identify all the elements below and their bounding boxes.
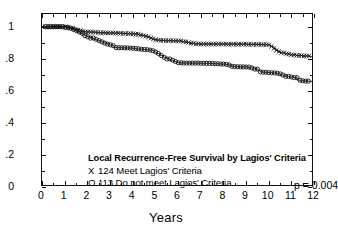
series-not-meet [42,25,312,84]
x-tick-label: 9 [242,190,248,201]
x-tick-label: 2 [83,190,89,201]
x-tick-label: 5 [151,190,157,201]
x-tick-label: 12 [307,190,319,201]
y-tick-label: 0 [8,181,14,192]
y-tick-label: .8 [5,53,14,64]
y-tick-label: .4 [5,117,14,128]
legend-label-meet: 124 Meet Lagios' Criteria [98,165,202,176]
chart-legend: Local Recurrence-Free Survival by Lagios… [88,152,306,190]
y-tick-label: .6 [5,85,14,96]
x-tick-label: 4 [129,190,135,201]
x-tick-major-top [314,14,315,18]
x-axis-title: Years [0,210,332,225]
legend-label-not-meet: 113 Do not meet Lagios' Criteria [98,177,231,188]
x-tick-label: 0 [38,190,44,201]
x-tick-label: 6 [174,190,180,201]
x-tick-label: 7 [197,190,203,201]
legend-row-meet: X124 Meet Lagios' Criteria [88,165,306,178]
x-tick-label: 3 [106,190,112,201]
x-tick-label: 1 [61,190,67,201]
y-tick-major [42,187,46,188]
p-value-annotation: p = 0.004 [294,179,338,191]
legend-title: Local Recurrence-Free Survival by Lagios… [88,152,306,165]
series-meet [42,24,312,58]
x-tick-label: 11 [285,190,296,201]
legend-marker-o: O [88,177,98,190]
y-tick-label: 1 [8,21,14,32]
legend-marker-x: X [88,165,98,178]
x-tick-label: 8 [219,190,225,201]
plot-frame: Local Recurrence-Free Survival by Lagios… [41,13,313,186]
legend-row-not-meet: O113 Do not meet Lagios' Criteria [88,177,306,190]
y-tick-label: .2 [5,149,14,160]
x-tick-label: 10 [262,190,274,201]
